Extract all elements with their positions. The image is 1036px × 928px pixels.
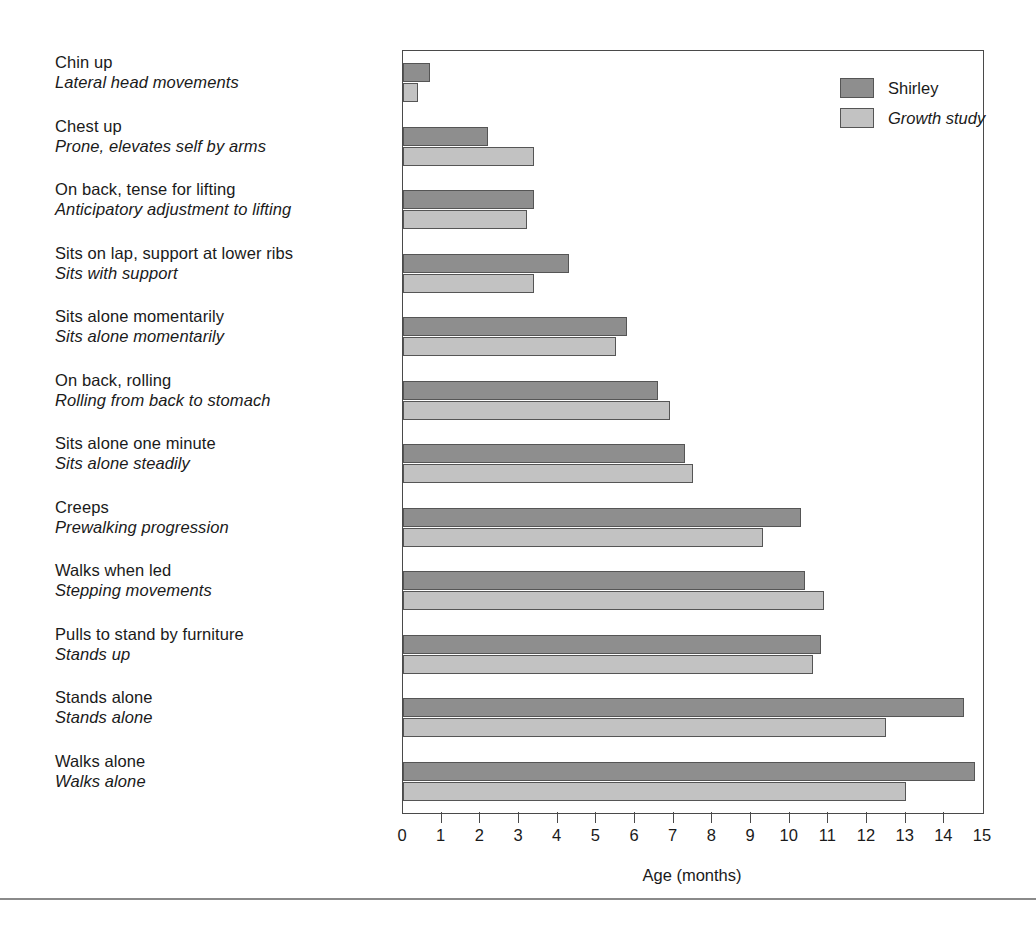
bar-group — [403, 571, 983, 611]
category-label-shirley: Creeps — [55, 497, 395, 517]
category-label: On back, tense for liftingAnticipatory a… — [55, 179, 395, 219]
bar-shirley — [403, 762, 975, 781]
bar-shirley — [403, 63, 430, 82]
bars-container — [403, 51, 983, 813]
x-axis-tick — [711, 812, 712, 823]
x-axis-tick — [595, 812, 596, 823]
category-label: Sits on lap, support at lower ribsSits w… — [55, 243, 395, 283]
category-label: Walks when ledStepping movements — [55, 560, 395, 600]
x-axis-tick — [866, 812, 867, 823]
x-axis-tick-label: 9 — [745, 826, 754, 845]
bar-growth-study — [403, 210, 527, 229]
category-label-shirley: Sits alone one minute — [55, 433, 395, 453]
bar-shirley — [403, 508, 801, 527]
bar-group — [403, 254, 983, 294]
bar-shirley — [403, 635, 821, 654]
x-axis-tick — [557, 812, 558, 823]
bar-growth-study — [403, 655, 813, 674]
bar-shirley — [403, 381, 658, 400]
category-label: Chin upLateral head movements — [55, 52, 395, 92]
dark-gray-swatch — [840, 78, 874, 98]
x-axis-tick — [673, 812, 674, 823]
bar-shirley — [403, 254, 569, 273]
category-label-growth-study: Walks alone — [55, 771, 395, 791]
bar-growth-study — [403, 528, 763, 547]
bar-group — [403, 635, 983, 675]
category-label-shirley: On back, rolling — [55, 370, 395, 390]
bar-group — [403, 190, 983, 230]
bar-growth-study — [403, 591, 824, 610]
category-label-growth-study: Anticipatory adjustment to lifting — [55, 199, 395, 219]
category-label-growth-study: Stands up — [55, 644, 395, 664]
category-label-shirley: Chin up — [55, 52, 395, 72]
x-axis-tick — [750, 812, 751, 823]
bar-growth-study — [403, 464, 693, 483]
bar-growth-study — [403, 782, 906, 801]
x-axis-tick — [827, 812, 828, 823]
bar-shirley — [403, 317, 627, 336]
x-axis-tick — [905, 812, 906, 823]
x-axis-tick-label: 14 — [934, 826, 952, 845]
bar-growth-study — [403, 401, 670, 420]
category-label-shirley: On back, tense for lifting — [55, 179, 395, 199]
category-label-shirley: Sits alone momentarily — [55, 306, 395, 326]
x-axis-tick-label: 15 — [973, 826, 991, 845]
category-label-shirley: Walks alone — [55, 751, 395, 771]
bar-growth-study — [403, 718, 886, 737]
plot-area: ShirleyGrowth study — [402, 50, 984, 814]
bar-group — [403, 444, 983, 484]
category-label-growth-study: Rolling from back to stomach — [55, 390, 395, 410]
category-label: On back, rollingRolling from back to sto… — [55, 370, 395, 410]
bar-growth-study — [403, 274, 534, 293]
legend-item: Growth study — [840, 103, 990, 133]
x-axis: 0123456789101112131415 — [402, 812, 982, 838]
bar-growth-study — [403, 337, 616, 356]
category-label: CreepsPrewalking progression — [55, 497, 395, 537]
bottom-divider — [0, 898, 1036, 900]
bar-growth-study — [403, 147, 534, 166]
x-axis-tick-label: 11 — [819, 826, 836, 845]
x-axis-tick — [479, 812, 480, 823]
category-label: Pulls to stand by furnitureStands up — [55, 624, 395, 664]
category-label: Sits alone momentarilySits alone momenta… — [55, 306, 395, 346]
x-axis-tick-label: 10 — [779, 826, 797, 845]
category-label: Chest upProne, elevates self by arms — [55, 116, 395, 156]
light-gray-swatch — [840, 108, 874, 128]
x-axis-tick-label: 8 — [707, 826, 716, 845]
category-label-shirley: Sits on lap, support at lower ribs — [55, 243, 395, 263]
bar-shirley — [403, 698, 964, 717]
bar-shirley — [403, 444, 685, 463]
category-label-shirley: Stands alone — [55, 687, 395, 707]
category-label-column: Chin upLateral head movementsChest upPro… — [55, 50, 395, 810]
x-axis-tick-label: 12 — [857, 826, 875, 845]
x-axis-tick — [943, 812, 944, 823]
bar-group — [403, 762, 983, 802]
x-axis-title: Age (months) — [402, 866, 982, 885]
category-label-growth-study: Sits alone steadily — [55, 453, 395, 473]
bar-group — [403, 508, 983, 548]
x-axis-tick-label: 0 — [397, 826, 406, 845]
bar-shirley — [403, 571, 805, 590]
bar-group — [403, 381, 983, 421]
bar-growth-study — [403, 83, 418, 102]
x-axis-tick-label: 13 — [895, 826, 913, 845]
bar-shirley — [403, 190, 534, 209]
category-label: Sits alone one minuteSits alone steadily — [55, 433, 395, 473]
x-axis-tick — [441, 812, 442, 823]
x-axis-tick-label: 5 — [591, 826, 600, 845]
legend-item: Shirley — [840, 73, 990, 103]
x-axis-tick-label: 2 — [475, 826, 484, 845]
x-axis-tick — [789, 812, 790, 823]
category-label-growth-study: Stepping movements — [55, 580, 395, 600]
bar-shirley — [403, 127, 488, 146]
bar-group — [403, 698, 983, 738]
category-label-growth-study: Sits with support — [55, 263, 395, 283]
chart-legend: ShirleyGrowth study — [840, 73, 990, 133]
x-axis-tick-label: 7 — [668, 826, 677, 845]
milestone-comparison-chart: Chin upLateral head movementsChest upPro… — [0, 0, 1036, 928]
x-axis-tick — [634, 812, 635, 823]
category-label: Walks aloneWalks alone — [55, 751, 395, 791]
category-label-growth-study: Prone, elevates self by arms — [55, 136, 395, 156]
legend-label: Growth study — [888, 109, 985, 128]
x-axis-tick-label: 1 — [436, 826, 445, 845]
